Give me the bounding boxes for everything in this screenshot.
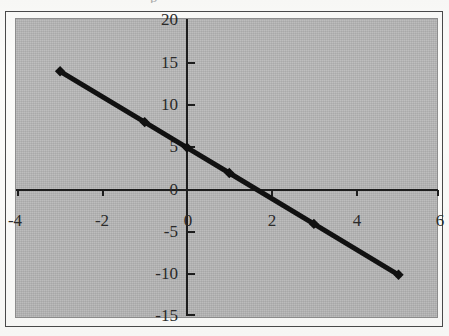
scanned-page: p -4 -2 0 2 4 6 20 15 10 5 0 -5 -10 -15 [0, 0, 449, 336]
series-layer [0, 0, 449, 336]
